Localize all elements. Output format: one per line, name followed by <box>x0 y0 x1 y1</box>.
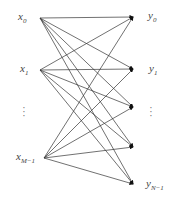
edge-x0-y2 <box>40 18 133 107</box>
input-label-x0: x0 <box>18 11 26 25</box>
output-label-y0: y0 <box>148 10 156 24</box>
edge-x1-y1 <box>40 69 133 70</box>
edge-xM-1-yN-1 <box>44 158 133 184</box>
input-label-xM-1: xM−1 <box>16 151 35 165</box>
output-ellipsis: ··· <box>148 106 154 118</box>
label-subscript: 0 <box>23 17 27 25</box>
edges <box>40 17 133 184</box>
input-label-x1: x1 <box>20 63 28 77</box>
edge-x1-y3 <box>40 70 133 147</box>
label-subscript: 1 <box>25 69 29 77</box>
edge-xM-1-y2 <box>44 107 133 158</box>
edge-x0-y0 <box>40 17 133 18</box>
edge-xM-1-y3 <box>44 147 133 158</box>
label-subscript: N−1 <box>151 184 164 192</box>
output-label-yN-1: yN−1 <box>146 178 164 192</box>
label-subscript: 1 <box>154 69 158 77</box>
edge-x0-yN-1 <box>40 18 133 184</box>
edge-x1-yN-1 <box>40 70 133 184</box>
output-label-y1: y1 <box>149 63 157 77</box>
edge-xM-1-y0 <box>44 17 133 158</box>
input-ellipsis: ··· <box>21 106 27 118</box>
edge-xM-1-y1 <box>44 69 133 158</box>
label-subscript: 0 <box>153 16 157 24</box>
label-subscript: M−1 <box>21 157 35 165</box>
